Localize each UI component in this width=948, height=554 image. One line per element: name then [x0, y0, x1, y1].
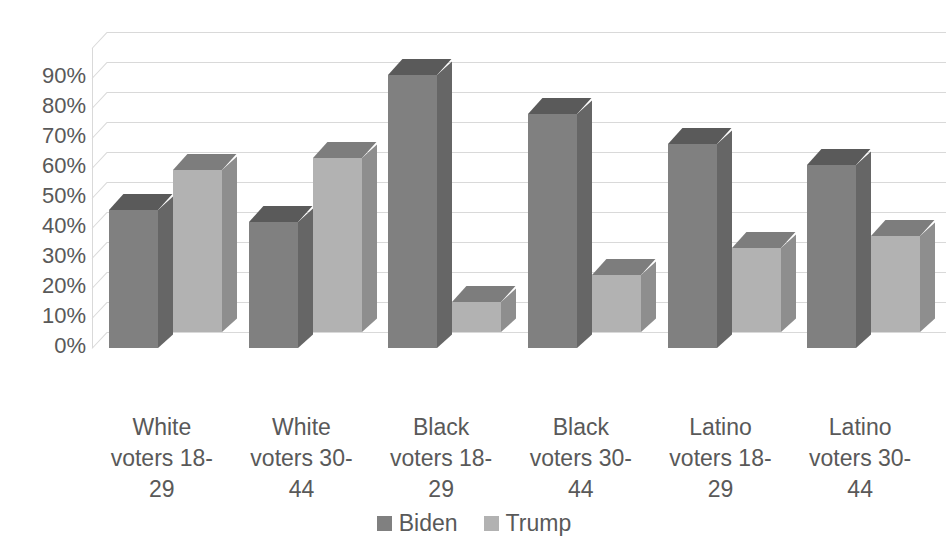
category-label-line: 44 [511, 474, 651, 505]
bar-side-face [222, 156, 237, 332]
chart-legend: BidenTrump [0, 503, 948, 543]
bar-side-face [920, 222, 935, 332]
bar-side-face [577, 100, 592, 348]
category-label-line: voters 18- [371, 443, 511, 474]
bar-front-face [109, 210, 158, 348]
category-label-1: Whitevoters 30-44 [232, 412, 372, 505]
bar-side-face [298, 208, 313, 348]
bar-front-face [732, 248, 781, 332]
category-label-line: White [232, 412, 372, 443]
bar-side-face [717, 130, 732, 348]
bar-side-face [856, 151, 871, 348]
bar-trump-0[interactable] [173, 170, 222, 332]
category-label-0: Whitevoters 18-29 [92, 412, 232, 505]
category-label-line: Black [371, 412, 511, 443]
category-label-line: 29 [651, 474, 791, 505]
bar-biden-2[interactable] [388, 75, 437, 348]
bar-front-face [592, 275, 641, 332]
bar-front-face [452, 302, 501, 332]
bar-front-face [388, 75, 437, 348]
category-label-4: Latinovoters 18-29 [651, 412, 791, 505]
legend-swatch-icon [377, 516, 392, 531]
bar-side-face [781, 234, 796, 332]
bar-trump-4[interactable] [732, 248, 781, 332]
bar-front-face [249, 222, 298, 348]
category-label-line: voters 18- [651, 443, 791, 474]
category-label-line: White [92, 412, 232, 443]
category-label-line: 44 [790, 474, 930, 505]
legend-swatch-icon [484, 516, 499, 531]
bar-trump-3[interactable] [592, 275, 641, 332]
bar-front-face [173, 170, 222, 332]
bar-series-group [0, 0, 948, 400]
chart-container: 90%80%70%60%50%40%30%20%10%0% Whitevoter… [0, 0, 948, 554]
bar-biden-1[interactable] [249, 222, 298, 348]
category-label-3: Blackvoters 30-44 [511, 412, 651, 505]
bar-front-face [807, 165, 856, 348]
bar-side-face [362, 144, 377, 332]
bar-biden-0[interactable] [109, 210, 158, 348]
bar-side-face [158, 196, 173, 348]
bar-front-face [871, 236, 920, 332]
category-label-line: 29 [92, 474, 232, 505]
category-label-line: voters 30- [232, 443, 372, 474]
bar-biden-4[interactable] [668, 144, 717, 348]
plot-area: 90%80%70%60%50%40%30%20%10%0% [0, 0, 948, 400]
bar-side-face [437, 61, 452, 348]
bar-trump-1[interactable] [313, 158, 362, 332]
bar-biden-5[interactable] [807, 165, 856, 348]
legend-label: Biden [399, 512, 458, 535]
category-label-line: Black [511, 412, 651, 443]
x-axis-category-labels: Whitevoters 18-29Whitevoters 30-44Blackv… [0, 404, 948, 514]
bar-trump-5[interactable] [871, 236, 920, 332]
bar-biden-3[interactable] [528, 114, 577, 348]
category-label-line: Latino [651, 412, 791, 443]
bar-front-face [668, 144, 717, 348]
category-label-line: 29 [371, 474, 511, 505]
bar-front-face [528, 114, 577, 348]
category-label-line: voters 30- [790, 443, 930, 474]
legend-item-biden[interactable]: Biden [377, 512, 458, 535]
legend-label: Trump [506, 512, 572, 535]
bar-front-face [313, 158, 362, 332]
category-label-line: voters 18- [92, 443, 232, 474]
legend-item-trump[interactable]: Trump [484, 512, 572, 535]
category-label-line: 44 [232, 474, 372, 505]
category-label-2: Blackvoters 18-29 [371, 412, 511, 505]
category-label-line: Latino [790, 412, 930, 443]
category-label-5: Latinovoters 30-44 [790, 412, 930, 505]
category-label-line: voters 30- [511, 443, 651, 474]
bar-trump-2[interactable] [452, 302, 501, 332]
